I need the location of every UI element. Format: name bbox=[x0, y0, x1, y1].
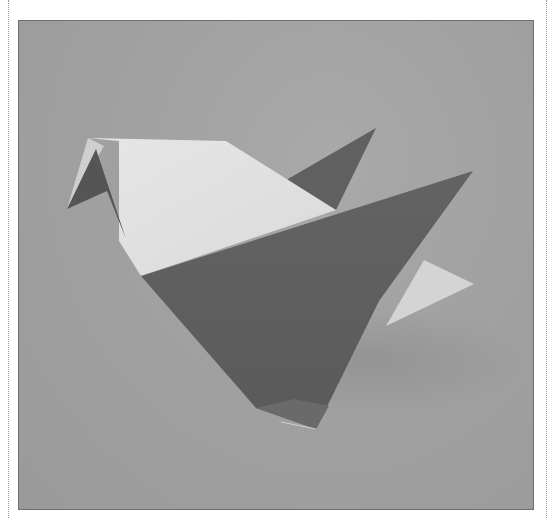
beak bbox=[67, 149, 126, 239]
origami-bird-photo bbox=[18, 20, 534, 510]
origami-bird-illustration bbox=[19, 21, 534, 510]
page-margin-rule-left bbox=[8, 0, 9, 518]
page-margin-rule-right bbox=[546, 0, 547, 518]
